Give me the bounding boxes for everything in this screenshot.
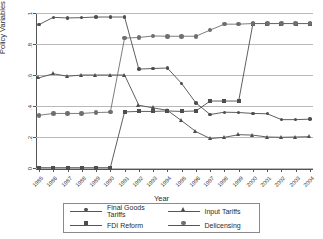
x-tick-label: 2001 (257, 175, 273, 191)
x-tick-mark (153, 169, 154, 172)
data-point (108, 73, 112, 77)
legend-item-input-tariffs[interactable]: Input Tariffs (162, 207, 260, 215)
gridline (36, 168, 313, 169)
x-tick-label: 1993 (143, 175, 159, 191)
data-point (293, 21, 298, 26)
series-line-fdi-reform (39, 24, 310, 168)
x-tick-label: 1995 (171, 175, 187, 191)
x-tick-mark (139, 169, 140, 172)
plot-area (36, 13, 313, 168)
x-tick-mark (210, 169, 211, 172)
x-tick-mark (182, 169, 183, 172)
data-point (194, 109, 198, 113)
series-line-final-goods-tariffs (39, 17, 310, 120)
data-point (51, 71, 55, 75)
x-tick-label: 1992 (129, 175, 145, 191)
x-axis-line (36, 169, 313, 170)
x-tick-mark (68, 169, 69, 172)
legend-label: FDI Reform (107, 222, 143, 229)
data-point (166, 66, 169, 69)
data-point (194, 101, 197, 104)
x-axis-title: Year (0, 194, 323, 203)
x-tick-mark (53, 169, 54, 172)
data-point (251, 21, 256, 26)
data-point (65, 74, 69, 78)
x-tick-label: 1999 (228, 175, 244, 191)
y-tick-label: .8 (27, 43, 33, 59)
data-point (208, 99, 212, 103)
data-point (223, 111, 226, 114)
data-point (137, 35, 142, 40)
x-tick-label: 2004 (300, 175, 316, 191)
data-point (137, 67, 140, 70)
x-tick-label: 1987 (57, 175, 73, 191)
legend-item-final-goods-tariffs[interactable]: Final Goods Tariffs (64, 204, 162, 218)
data-point (52, 16, 55, 19)
data-point (151, 67, 154, 70)
y-tick-label: 1 (27, 12, 33, 28)
legend-swatch-square-icon (70, 221, 102, 229)
x-tick-mark (224, 169, 225, 172)
x-tick-mark (39, 169, 40, 172)
x-tick-mark (167, 169, 168, 172)
data-point (79, 111, 84, 116)
data-point (94, 110, 99, 115)
data-point (123, 15, 126, 18)
data-point (208, 136, 212, 140)
data-point (165, 34, 170, 39)
legend-swatch-dot-icon (70, 207, 102, 215)
series-line-input-tariffs (39, 74, 310, 139)
data-point (250, 133, 254, 137)
x-tick-label: 2002 (271, 175, 287, 191)
data-point (265, 21, 270, 26)
data-point (108, 110, 113, 115)
x-tick-label: 2003 (285, 175, 301, 191)
y-tick-label: .6 (27, 74, 33, 90)
x-tick-mark (196, 169, 197, 172)
data-point (79, 73, 83, 77)
chart-figure: Policy Variables 0.2.4.6.81 198519861987… (0, 0, 323, 239)
data-point (51, 111, 56, 116)
x-tick-mark (125, 169, 126, 172)
data-point (180, 109, 184, 113)
series-line-delicensing (39, 24, 310, 116)
data-point (265, 135, 269, 139)
legend-item-fdi-reform[interactable]: FDI Reform (64, 221, 162, 229)
x-tick-mark (281, 169, 282, 172)
data-point (237, 99, 241, 103)
legend-item-delicensing[interactable]: Delicensing (162, 221, 260, 229)
data-point (308, 21, 313, 26)
data-point (193, 129, 197, 133)
x-tick-mark (296, 169, 297, 172)
data-point (151, 109, 155, 113)
chart-legend: Final Goods Tariffs Input Tariffs FDI Re… (63, 203, 260, 233)
data-point (93, 73, 97, 77)
x-tick-mark (253, 169, 254, 172)
x-tick-mark (239, 169, 240, 172)
x-tick-label: 1998 (214, 175, 230, 191)
legend-swatch-triangle-icon (168, 207, 200, 215)
x-tick-mark (82, 169, 83, 172)
data-point (194, 34, 199, 39)
y-tick-label: .2 (27, 136, 33, 152)
data-point (65, 111, 70, 116)
y-tick-label: 0 (27, 167, 33, 183)
data-point (222, 135, 226, 139)
x-tick-label: 1989 (86, 175, 102, 191)
x-tick-label: 1986 (43, 175, 59, 191)
series-lines (36, 13, 313, 168)
data-point (137, 109, 141, 113)
x-tick-mark (267, 169, 268, 172)
data-point (307, 134, 311, 138)
data-point (37, 23, 40, 26)
data-point (251, 112, 254, 115)
legend-label: Delicensing (205, 222, 241, 229)
data-point (222, 99, 226, 103)
x-tick-mark (96, 169, 97, 172)
data-point (66, 16, 69, 19)
x-tick-label: 1996 (186, 175, 202, 191)
y-tick-mark (33, 168, 36, 169)
data-point (179, 34, 184, 39)
data-point (122, 73, 126, 77)
data-point (279, 135, 283, 139)
